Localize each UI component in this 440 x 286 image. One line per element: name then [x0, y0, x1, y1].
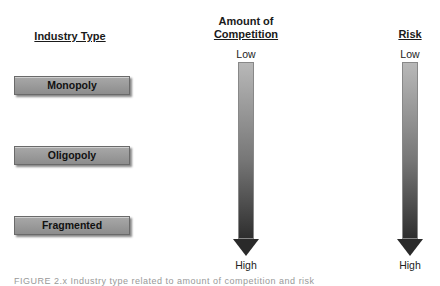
header-competition-line2: Competition: [196, 28, 296, 41]
risk-low-label: Low: [390, 48, 430, 60]
risk-arrow-head-icon: [397, 239, 423, 256]
industry-box-oligopoly: Oligopoly: [14, 146, 130, 165]
competition-high-label: High: [226, 259, 266, 271]
risk-arrow-shaft: [402, 62, 418, 239]
header-risk: Risk: [390, 28, 430, 41]
header-amount-of-competition: Amount of Competition: [196, 15, 296, 41]
industry-box-fragmented: Fragmented: [14, 216, 130, 235]
industry-box-monopoly: Monopoly: [14, 76, 130, 95]
figure-caption: FIGURE 2.x Industry type related to amou…: [14, 276, 315, 286]
header-competition-line1: Amount of: [196, 15, 296, 28]
competition-low-label: Low: [226, 48, 266, 60]
header-industry-type: Industry Type: [30, 30, 110, 43]
risk-high-label: High: [390, 259, 430, 271]
competition-arrow-head-icon: [233, 239, 259, 256]
competition-arrow-shaft: [238, 62, 254, 239]
